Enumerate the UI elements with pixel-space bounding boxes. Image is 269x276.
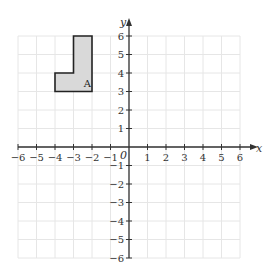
shape-label: A <box>83 78 92 89</box>
y-axis-arrow-icon <box>126 18 132 26</box>
origin-label: 0 <box>120 149 127 162</box>
y-tick-label: 3 <box>118 86 124 97</box>
y-tick-label: 2 <box>118 105 124 116</box>
x-tick-label: −6 <box>11 152 26 163</box>
x-tick-label: 1 <box>144 152 150 163</box>
x-tick-label: −4 <box>48 152 63 163</box>
y-tick-label: −3 <box>109 197 124 208</box>
x-tick-label: 3 <box>181 152 187 163</box>
y-tick-label: 6 <box>118 31 124 42</box>
y-tick-label: 5 <box>118 49 124 60</box>
y-tick-label: 4 <box>118 68 124 79</box>
plot-svg: Axy−6−5−4−3−2−1123456654321−1−2−3−4−5−60 <box>0 0 269 276</box>
y-tick-label: −4 <box>109 216 124 227</box>
x-tick-label: 2 <box>163 152 169 163</box>
x-tick-label: 4 <box>200 152 206 163</box>
x-tick-label: −2 <box>85 152 100 163</box>
y-tick-label: −5 <box>109 234 124 245</box>
y-tick-label: −6 <box>109 253 124 264</box>
y-tick-label: −2 <box>109 179 124 190</box>
x-tick-label: 6 <box>237 152 243 163</box>
coordinate-plane: Axy−6−5−4−3−2−1123456654321−1−2−3−4−5−60 <box>0 0 269 276</box>
y-tick-label: 1 <box>118 123 124 134</box>
y-axis-label: y <box>119 16 127 29</box>
x-tick-label: 5 <box>218 152 224 163</box>
x-axis-label: x <box>256 142 263 155</box>
x-tick-label: −3 <box>66 152 81 163</box>
x-tick-label: −5 <box>29 152 44 163</box>
